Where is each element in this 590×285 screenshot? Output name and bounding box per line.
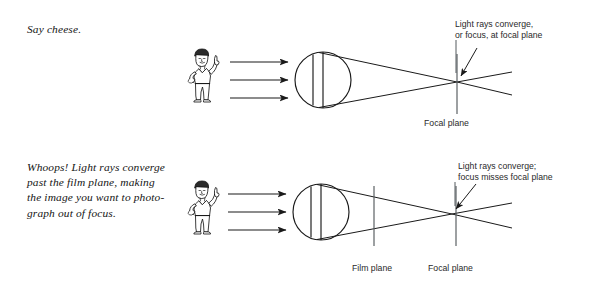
lens-top: [295, 52, 351, 108]
diverging-rays-top: [457, 72, 512, 95]
illustration-page: Say cheese. Whoops! Light rays converge …: [0, 0, 590, 285]
annotation-pointer-bottom: [456, 184, 476, 209]
ray-diverge-upper-top: [457, 72, 512, 82]
photographer-figure-top: [182, 46, 224, 104]
ray-converge-lower-bottom: [317, 214, 452, 240]
ray-converge-upper-top: [319, 53, 457, 83]
ray-diverge-lower-top: [457, 82, 512, 95]
ray-diverge-upper-bottom: [452, 203, 512, 214]
optics-diagrams: [0, 0, 590, 285]
label-focal-plane-top: Focal plane: [424, 118, 469, 129]
lens-body-top: [295, 52, 351, 108]
incoming-rays-bottom: [228, 194, 286, 230]
converging-rays-bottom: [317, 185, 452, 240]
label-focal-plane-bottom: Focal plane: [428, 263, 473, 274]
ray-converge-upper-bottom: [317, 185, 452, 215]
photographer-figure-bottom: [182, 176, 224, 236]
ray-diverge-lower-bottom: [452, 214, 512, 228]
converging-rays-top: [319, 53, 457, 108]
diagram-top-in-focus: [230, 40, 512, 114]
caption-top: Say cheese.: [27, 22, 207, 37]
diverging-rays-bottom: [452, 203, 512, 228]
annotation-bottom-focus: Light rays converge; focus misses focal …: [458, 161, 590, 184]
label-film-plane-bottom: Film plane: [352, 263, 392, 274]
lens-bottom: [293, 184, 349, 240]
annotation-top-focus: Light rays converge, or focus, at focal …: [455, 19, 590, 42]
lens-body-bottom: [293, 184, 349, 240]
annotation-pointer-top: [461, 48, 477, 76]
incoming-rays-top: [230, 62, 288, 98]
ray-converge-lower-top: [319, 82, 457, 108]
diagram-bottom-out-of-focus: [228, 182, 512, 246]
